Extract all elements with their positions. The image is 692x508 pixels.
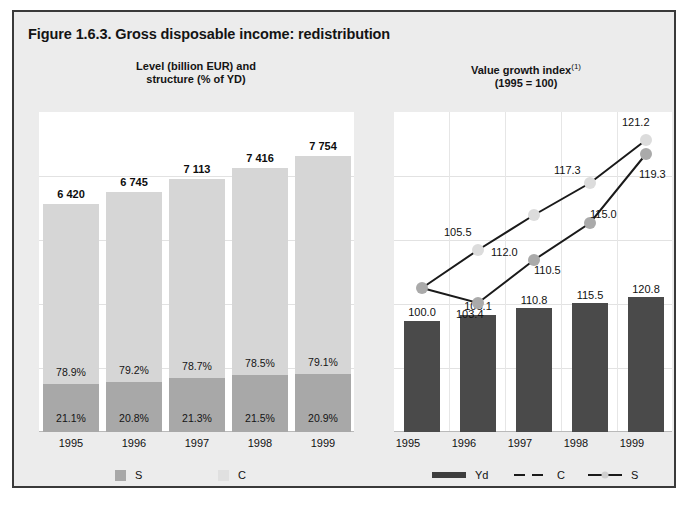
- bar-segment-c: [43, 204, 99, 384]
- left-chart-title: Level (billion EUR) and structure (% of …: [22, 60, 370, 86]
- bar-total-label: 7 416: [232, 152, 288, 164]
- right-chart-title-line1: Value growth index(1): [380, 60, 672, 77]
- bar-label-s: 20.8%: [106, 412, 162, 424]
- x-tick-1999: 1999: [606, 437, 658, 449]
- bar-label-c: 78.7%: [169, 360, 225, 372]
- left-plot-area: 78.9% 21.1% 6 420 79.2% 20.8% 6 745 78.7…: [39, 112, 354, 432]
- point-label-s-1998: 117.3: [554, 164, 581, 176]
- legend-swatch-s-icon: [588, 469, 622, 481]
- stacked-bar[interactable]: 79.2% 20.8% 6 745: [106, 192, 162, 432]
- bar-total-label: 7 754: [295, 140, 351, 152]
- left-chart-title-line2: structure (% of YD): [22, 73, 370, 86]
- stacked-bar[interactable]: 78.5% 21.5% 7 416: [232, 168, 288, 432]
- x-tick-1998: 1998: [232, 437, 288, 449]
- stacked-bar[interactable]: 79.1% 20.9% 7 754: [295, 156, 351, 432]
- bar-label-s: 20.9%: [295, 412, 351, 424]
- x-tick-1996: 1996: [438, 437, 490, 449]
- x-tick-1995: 1995: [43, 437, 99, 449]
- right-chart-title-main: Value growth index: [471, 64, 571, 76]
- legend-item-yd[interactable]: Yd: [432, 469, 488, 481]
- bar-segment-s: [106, 382, 162, 432]
- legend-swatch-yd-icon: [432, 469, 466, 481]
- point-label-c-1998: 115.0: [590, 208, 617, 220]
- stacked-bar[interactable]: 78.7% 21.3% 7 113: [169, 179, 225, 432]
- x-tick-1998: 1998: [550, 437, 602, 449]
- right-chart-legend: Yd C S: [380, 469, 672, 487]
- legend-label-s: S: [631, 469, 638, 481]
- data-point-c[interactable]: [528, 209, 540, 221]
- x-tick-1995: 1995: [382, 437, 434, 449]
- legend-label-s: S: [135, 469, 142, 481]
- bar-label-c: 79.2%: [106, 364, 162, 376]
- bar-label-c: 78.5%: [232, 357, 288, 369]
- bar-total-label: 6 745: [106, 176, 162, 188]
- point-label-c-1997: 110.5: [534, 264, 561, 276]
- data-point-s[interactable]: [640, 148, 652, 160]
- point-label-s-1997: 112.0: [491, 246, 518, 258]
- legend-item-s[interactable]: S: [115, 469, 142, 481]
- footnote-marker: (1): [571, 62, 581, 71]
- bar-total-label: 6 420: [43, 188, 99, 200]
- legend-swatch-s-icon: [115, 470, 126, 481]
- bar-label-s: 21.3%: [169, 412, 225, 424]
- left-chart-legend: S C: [22, 469, 370, 485]
- right-chart-panel: Value growth index(1) (1995 = 100) 100.0…: [380, 54, 672, 474]
- bar-segment-c: [295, 156, 351, 374]
- bar-segment-c: [106, 192, 162, 382]
- right-chart-title-line2: (1995 = 100): [380, 77, 672, 90]
- bar-segment-c: [232, 168, 288, 375]
- bar-segment-c: [169, 179, 225, 378]
- left-chart-panel: Level (billion EUR) and structure (% of …: [22, 54, 370, 474]
- data-point-c[interactable]: [640, 134, 652, 146]
- legend-item-c[interactable]: C: [218, 469, 246, 481]
- legend-label-c: C: [238, 469, 246, 481]
- point-label-c-1996: 105.5: [444, 226, 472, 238]
- data-point-c[interactable]: [584, 177, 596, 189]
- x-tick-1996: 1996: [106, 437, 162, 449]
- legend-label-c: C: [557, 469, 565, 481]
- data-point-c[interactable]: [472, 244, 484, 256]
- x-tick-1997: 1997: [169, 437, 225, 449]
- x-tick-1999: 1999: [295, 437, 351, 449]
- stacked-bar[interactable]: 78.9% 21.1% 6 420: [43, 204, 99, 432]
- point-label-s-1999: 119.3: [639, 168, 666, 180]
- bar-label-c: 78.9%: [43, 366, 99, 378]
- bar-label-s: 21.5%: [232, 412, 288, 424]
- point-label-s-1996: 103.4: [456, 308, 484, 320]
- point-label-c-1999: 121.2: [622, 116, 650, 128]
- data-point-c[interactable]: [416, 282, 428, 294]
- x-tick-1997: 1997: [494, 437, 546, 449]
- left-chart-title-line1: Level (billion EUR) and: [22, 60, 370, 73]
- figure-panel: Figure 1.6.3. Gross disposable income: r…: [12, 10, 676, 488]
- figure-title: Figure 1.6.3. Gross disposable income: r…: [28, 26, 390, 42]
- legend-swatch-c-icon: [514, 469, 548, 481]
- legend-label-yd: Yd: [475, 469, 488, 481]
- legend-item-c[interactable]: C: [514, 469, 565, 481]
- right-chart-title: Value growth index(1) (1995 = 100): [380, 60, 672, 90]
- legend-item-s[interactable]: S: [588, 469, 638, 481]
- legend-swatch-c-icon: [218, 470, 229, 481]
- right-plot-area: 100.0 105.1 110.8 115.5 120.8: [394, 112, 672, 432]
- bar-total-label: 7 113: [169, 163, 225, 175]
- bar-segment-s: [43, 384, 99, 432]
- bar-label-c: 79.1%: [295, 356, 351, 368]
- bar-label-s: 21.1%: [43, 412, 99, 424]
- line-series-svg: [394, 112, 672, 432]
